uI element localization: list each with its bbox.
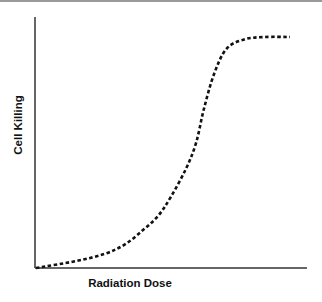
- x-axis-label: Radiation Dose: [60, 277, 200, 289]
- dose-response-curve: [36, 37, 290, 268]
- y-axis-label: Cell Killing: [12, 95, 24, 154]
- plot-area: [0, 0, 322, 302]
